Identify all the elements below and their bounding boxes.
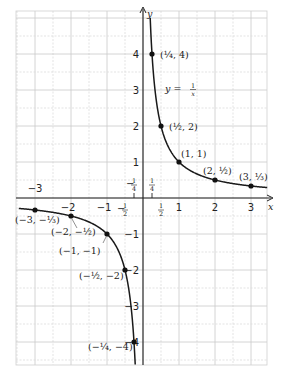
equation-numerator: 1 (191, 82, 195, 90)
y-tick-label: −1 (124, 229, 139, 240)
point-label: (−½, −2) (79, 270, 124, 281)
point-label: (½, 2) (169, 121, 198, 132)
data-point (158, 123, 163, 128)
equation-label: y = 1x (164, 82, 196, 98)
equation-prefix: y = (164, 83, 181, 94)
grid (16, 11, 267, 365)
numerator: 1 (132, 177, 136, 185)
point-label: (3, ⅓) (239, 171, 268, 182)
x-tick-label: −14 (126, 177, 137, 193)
point-label: (−1, −1) (59, 245, 100, 256)
y-tick-label: 4 (133, 49, 139, 60)
y-axis-label: y (146, 8, 153, 19)
leader-arrow-icon (103, 237, 106, 243)
data-point (176, 159, 181, 164)
grid-frame (16, 11, 267, 365)
denominator: 4 (150, 185, 154, 193)
data-point (212, 177, 217, 182)
y-tick-label: 2 (133, 121, 139, 132)
denominator: 2 (123, 210, 127, 218)
point-label: (−¼, −4) (88, 341, 133, 352)
x-tick-label: 2 (212, 202, 218, 213)
reciprocal-function-graph: xy −3−2−1−12−1414121234321−1−2−3−4 (¼, 4… (0, 0, 281, 377)
data-point (248, 183, 253, 188)
numerator: 1 (159, 202, 163, 210)
x-tick-label: −2 (61, 202, 76, 213)
point-label: (¼, 4) (160, 49, 189, 60)
point-label: (2, ½) (203, 165, 232, 176)
equation-denominator: x (191, 90, 195, 98)
denominator: 2 (159, 210, 163, 218)
x-tick-label: 1 (176, 202, 182, 213)
data-point (104, 231, 109, 236)
point-label: (1, 1) (181, 148, 207, 159)
numerator: 1 (150, 177, 154, 185)
denominator: 4 (132, 185, 136, 193)
x-axis-label: x (268, 201, 274, 212)
numerator: 1 (123, 202, 127, 210)
x-tick-label: −1 (97, 202, 112, 213)
data-point (68, 213, 73, 218)
point-label: (−2, −½) (51, 226, 96, 237)
x-tick-label: 14 (149, 177, 155, 193)
x-tick-label: 3 (248, 202, 254, 213)
y-tick-label: 1 (133, 157, 139, 168)
point-label: (−3, −⅓) (15, 214, 60, 225)
data-point (149, 51, 154, 56)
x-tick-label: −3 (28, 183, 43, 194)
axes: xy (16, 7, 274, 365)
y-tick-label: 3 (133, 85, 139, 96)
data-point (32, 207, 37, 212)
